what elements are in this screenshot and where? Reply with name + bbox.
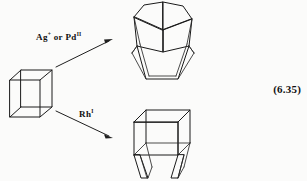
reaction-scheme: Ag+ or PdII RhI (6.35)	[0, 0, 307, 181]
arrow-upper-label-prefix: Ag	[36, 32, 48, 42]
product-opened-cube	[134, 110, 190, 178]
arrow-upper-label: Ag+ or PdII	[36, 31, 81, 42]
arrow-upper	[56, 39, 113, 67]
arrow-lower-label-sup1: I	[91, 108, 93, 114]
arrow-upper-label-middle: or Pd	[51, 32, 77, 42]
equation-number: (6.35)	[273, 83, 301, 95]
reactant-cube	[10, 70, 52, 117]
arrow-lower-label-prefix: Rh	[79, 109, 91, 119]
product-cuneane-cage	[132, 2, 194, 79]
arrow-upper-label-sup2: II	[77, 31, 81, 37]
scheme-drawing	[0, 0, 307, 181]
arrow-lower-label: RhI	[79, 108, 93, 119]
